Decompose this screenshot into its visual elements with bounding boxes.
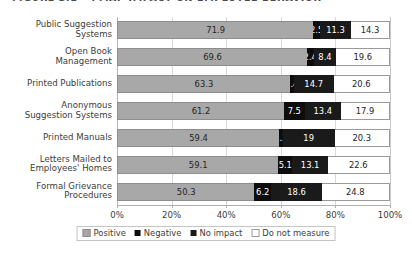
- bar-segment-donot: 20.6: [334, 75, 390, 93]
- category-label: Printed Publications: [0, 79, 112, 89]
- bar-segment-positive: 59.1: [117, 156, 278, 174]
- bar-value-label: 22.6: [349, 160, 368, 170]
- stacked-bar: 50.36.218.624.8: [117, 183, 390, 201]
- bar-value-label: 14.3: [361, 25, 380, 35]
- bar-value-label: 19.6: [353, 52, 372, 62]
- bar-value-label: 14.7: [304, 79, 323, 89]
- chart-row: Formal GrievanceProcedures50.36.218.624.…: [117, 183, 390, 201]
- x-axis: 0%20%40%60%80%100%: [117, 205, 390, 206]
- bar-value-label: 59.4: [189, 133, 208, 143]
- bar-segment-donot: 20.3: [335, 129, 390, 147]
- chart-row: Letters Mailed toEmployees' Homes59.15.1…: [117, 156, 390, 174]
- legend-swatch-positive: [83, 229, 91, 237]
- x-tick: [335, 205, 336, 208]
- legend-swatch-negative: [135, 230, 141, 236]
- bar-segment-donot: 14.3: [351, 21, 390, 39]
- plot-area: Public SuggestionSystems71.92.511.314.3O…: [117, 17, 390, 205]
- legend-label: Do not measure: [262, 228, 329, 238]
- category-label: Printed Manuals: [0, 133, 112, 143]
- bar-value-label: 63.3: [195, 79, 214, 89]
- gridline-100pct: [390, 17, 391, 205]
- bar-segment-negative: 6.2: [254, 183, 271, 201]
- bar-value-label: 2.5: [313, 25, 320, 35]
- stacked-bar: 63.31.414.720.6: [117, 75, 390, 93]
- legend-item-positive[interactable]: Positive: [83, 228, 126, 238]
- chart-row: Open BookManagement69.62.48.419.6: [117, 48, 390, 66]
- bar-segment-positive: 71.9: [117, 21, 313, 39]
- bar-segment-positive: 61.2: [117, 102, 284, 120]
- bar-segment-noimpact: 19: [283, 129, 335, 147]
- figure-title-text: PMAP IMPACT ON EMPLOYEE BEHAVIOR: [91, 0, 321, 3]
- figure-number: FIGURE 3.1: [12, 0, 77, 3]
- chart-row: Public SuggestionSystems71.92.511.314.3: [117, 21, 390, 39]
- bar-segment-negative: 2.5: [313, 21, 320, 39]
- bar-value-label: 61.2: [192, 106, 211, 116]
- bar-value-label: 18.6: [287, 187, 306, 197]
- bar-value-label: 71.9: [206, 25, 225, 35]
- bar-segment-negative: 7.5: [284, 102, 304, 120]
- bar-value-label: 6.2: [256, 187, 269, 197]
- x-tick-label: 60%: [271, 210, 290, 220]
- legend-swatch-noimpact: [190, 230, 196, 236]
- bar-value-label: 13.4: [313, 106, 332, 116]
- bar-value-label: 5.1: [279, 160, 292, 170]
- bar-segment-donot: 17.9: [341, 102, 390, 120]
- bar-value-label: 69.6: [203, 52, 222, 62]
- chart-row: Printed Publications63.31.414.720.6: [117, 75, 390, 93]
- bar-segment-positive: 50.3: [117, 183, 254, 201]
- bar-segment-donot: 22.6: [328, 156, 390, 174]
- x-tick: [117, 205, 118, 208]
- legend-item-donot[interactable]: Do not measure: [251, 228, 329, 238]
- bar-value-label: 19: [303, 133, 314, 143]
- category-label: Open BookManagement: [0, 48, 112, 67]
- category-label: Formal GrievanceProcedures: [0, 182, 112, 201]
- bar-segment-donot: 19.6: [336, 48, 390, 66]
- x-tick: [172, 205, 173, 208]
- bar-value-label: 13.1: [301, 160, 320, 170]
- bar-segment-negative: 5.1: [278, 156, 292, 174]
- stacked-bar: 59.41.31920.3: [117, 129, 390, 147]
- bar-segment-noimpact: 11.3: [320, 21, 351, 39]
- bar-segment-noimpact: 18.6: [271, 183, 322, 201]
- legend-label: Positive: [94, 228, 126, 238]
- category-label: AnonymousSuggestion Systems: [0, 101, 112, 120]
- legend-item-negative[interactable]: Negative: [135, 228, 182, 238]
- category-label: Public SuggestionSystems: [0, 21, 112, 40]
- bar-value-label: 17.9: [356, 106, 375, 116]
- bar-value-label: 20.6: [352, 79, 371, 89]
- stacked-bar: 71.92.511.314.3: [117, 21, 390, 39]
- bar-value-label: 8.4: [318, 52, 331, 62]
- bar-segment-positive: 69.6: [117, 48, 307, 66]
- stacked-bar: 69.62.48.419.6: [117, 48, 390, 66]
- bar-value-label: 50.3: [177, 187, 196, 197]
- legend-label: Negative: [144, 228, 182, 238]
- x-tick-label: 20%: [162, 210, 181, 220]
- legend-item-noimpact[interactable]: No impact: [190, 228, 242, 238]
- chart-row: AnonymousSuggestion Systems61.27.513.417…: [117, 102, 390, 120]
- bar-segment-noimpact: 14.7: [294, 75, 334, 93]
- bar-value-label: 20.3: [352, 133, 371, 143]
- x-tick-label: 80%: [326, 210, 345, 220]
- stacked-bar: 59.15.113.122.6: [117, 156, 390, 174]
- stacked-bar: 61.27.513.417.9: [117, 102, 390, 120]
- bar-segment-noimpact: 8.4: [314, 48, 337, 66]
- x-tick-label: 100%: [378, 210, 403, 220]
- bar-chart: Public SuggestionSystems71.92.511.314.3O…: [0, 14, 412, 214]
- x-tick: [226, 205, 227, 208]
- figure-title: FIGURE 3.1PMAP IMPACT ON EMPLOYEE BEHAVI…: [12, 0, 321, 3]
- bar-segment-positive: 59.4: [117, 129, 279, 147]
- x-tick-label: 0%: [110, 210, 124, 220]
- bar-value-label: 24.8: [346, 187, 365, 197]
- bar-value-label: 11.3: [326, 25, 345, 35]
- bar-value-label: 7.5: [288, 106, 301, 116]
- bar-segment-positive: 63.3: [117, 75, 290, 93]
- bar-segment-noimpact: 13.1: [292, 156, 328, 174]
- category-label: Letters Mailed toEmployees' Homes: [0, 155, 112, 174]
- chart-row: Printed Manuals59.41.31920.3: [117, 129, 390, 147]
- x-tick: [390, 205, 391, 208]
- legend-label: No impact: [199, 228, 242, 238]
- bar-value-label: 59.1: [189, 160, 208, 170]
- bar-segment-noimpact: 13.4: [305, 102, 342, 120]
- legend-swatch-donot: [251, 229, 259, 237]
- x-tick-label: 40%: [217, 210, 236, 220]
